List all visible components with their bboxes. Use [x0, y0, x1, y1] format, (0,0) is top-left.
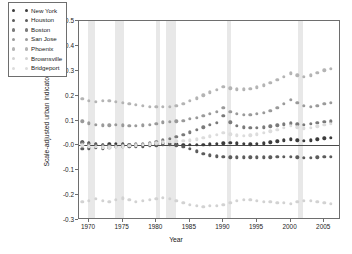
- data-point: [108, 99, 111, 102]
- legend-marker-swatch: [12, 28, 28, 31]
- legend-item-phoenix[interactable]: Phoenix: [12, 44, 62, 54]
- data-point: [289, 155, 292, 158]
- legend-item-brownsville[interactable]: Brownsville: [12, 54, 62, 64]
- x-axis-title: Year: [0, 236, 352, 243]
- data-point: [282, 155, 285, 158]
- data-point: [181, 145, 184, 148]
- data-point: [302, 75, 305, 78]
- legend-marker-dot: [12, 57, 15, 60]
- data-point: [309, 139, 312, 142]
- data-point: [195, 116, 198, 119]
- data-point: [195, 128, 198, 131]
- data-point: [269, 130, 272, 133]
- legend-marker-swatch: [12, 19, 28, 22]
- x-axis-tick: [323, 219, 324, 222]
- x-axis-tick-label: 1975: [115, 223, 129, 230]
- data-point: [282, 126, 285, 129]
- legend-item-label: Houston: [31, 17, 54, 23]
- data-point: [289, 98, 292, 101]
- data-point: [128, 198, 131, 201]
- data-point: [282, 201, 285, 204]
- y-axis-tick-label: -0.1: [63, 166, 74, 173]
- data-point: [141, 104, 144, 107]
- data-point: [222, 106, 225, 109]
- data-point: [269, 156, 272, 159]
- data-point: [235, 87, 238, 90]
- y-axis-tick: [75, 219, 78, 220]
- legend-marker-dot: [25, 57, 28, 60]
- legend-item-label: Brownsville: [31, 56, 62, 62]
- legend-item-label: Bridgeport: [31, 65, 60, 71]
- data-point: [215, 88, 218, 91]
- data-point: [81, 97, 84, 100]
- y-axis-tick-label: -0.0: [63, 141, 74, 148]
- data-point: [235, 112, 238, 115]
- data-point: [208, 90, 211, 93]
- legend-marker-dot: [25, 67, 28, 70]
- data-point: [188, 117, 191, 120]
- data-point: [275, 128, 278, 131]
- data-point: [329, 101, 332, 104]
- legend-item-label: San Jose: [31, 36, 57, 42]
- data-point: [282, 75, 285, 78]
- data-point: [202, 136, 205, 139]
- x-axis-tick: [155, 219, 156, 222]
- data-point: [289, 138, 292, 141]
- data-point: [262, 83, 265, 86]
- legend-item-bridgeport[interactable]: Bridgeport: [12, 64, 62, 74]
- data-point: [175, 199, 178, 202]
- data-point: [128, 144, 131, 147]
- data-point: [202, 126, 205, 129]
- data-point: [108, 146, 111, 149]
- data-point: [188, 139, 191, 142]
- legend-item-houston[interactable]: Houston: [12, 16, 62, 26]
- y-axis-tick: [75, 95, 78, 96]
- data-point: [181, 119, 184, 122]
- data-point: [255, 133, 258, 136]
- x-axis-tick-label: 1990: [215, 223, 229, 230]
- legend-marker-dot: [12, 47, 15, 50]
- x-axis-tick-label: 2000: [283, 223, 297, 230]
- data-point: [108, 200, 111, 203]
- data-point: [202, 152, 205, 155]
- data-point: [222, 114, 225, 117]
- data-point: [222, 155, 225, 158]
- data-point: [269, 81, 272, 84]
- data-point: [329, 155, 332, 158]
- x-axis-tick-label: 1985: [182, 223, 196, 230]
- data-point: [255, 126, 258, 129]
- data-point: [302, 199, 305, 202]
- data-point: [175, 120, 178, 123]
- legend-item-san-jose[interactable]: San Jose: [12, 35, 62, 45]
- data-point: [275, 201, 278, 204]
- data-point: [309, 122, 312, 125]
- data-point: [242, 113, 245, 116]
- data-point: [316, 104, 319, 107]
- legend-marker-dot: [12, 9, 15, 12]
- data-point: [235, 134, 238, 137]
- legend-item-new-york[interactable]: New York: [12, 6, 62, 16]
- data-point: [242, 126, 245, 129]
- y-axis-title: Scale-adjusted urban indicators: [43, 71, 50, 166]
- legend-marker-swatch: [12, 9, 28, 12]
- data-point: [94, 100, 97, 103]
- data-point: [222, 131, 225, 134]
- data-point: [249, 156, 252, 159]
- data-point: [316, 156, 319, 159]
- data-point: [269, 109, 272, 112]
- data-point: [302, 127, 305, 130]
- data-point: [249, 198, 252, 201]
- data-point: [134, 124, 137, 127]
- data-point: [242, 134, 245, 137]
- legend-marker-dot: [25, 38, 28, 41]
- data-point: [188, 99, 191, 102]
- recession-band: [227, 21, 232, 218]
- data-point: [275, 78, 278, 81]
- legend-marker-swatch: [12, 67, 28, 70]
- data-point: [309, 105, 312, 108]
- recession-band: [88, 21, 95, 218]
- recession-band: [156, 21, 160, 218]
- data-point: [101, 199, 104, 202]
- legend-item-boston[interactable]: Boston: [12, 25, 62, 35]
- y-axis-tick: [75, 169, 78, 170]
